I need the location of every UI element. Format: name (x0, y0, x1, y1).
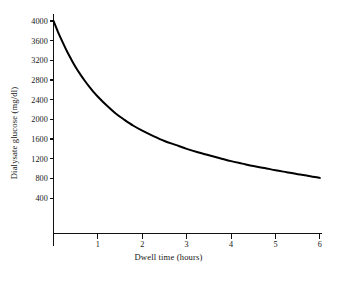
x-tick-label: 1 (96, 240, 100, 249)
x-tick-label: 5 (273, 240, 277, 249)
x-tick-label: 2 (140, 240, 144, 249)
axes (54, 14, 323, 246)
x-tick-label: 6 (318, 240, 322, 249)
y-tick-label: 3200 (10, 56, 48, 65)
x-axis-title: Dwell time (hours) (0, 252, 337, 262)
y-tick-label: 3600 (10, 36, 48, 45)
chart-figure: 40080012001600200024002800320036004000 1… (0, 0, 337, 284)
x-axis-ticks (98, 234, 320, 239)
glucose-decay-curve (54, 21, 320, 178)
y-tick-label: 4000 (10, 17, 48, 26)
y-tick-label: 400 (10, 194, 48, 203)
y-axis-ticks (50, 21, 54, 198)
y-axis-title: Dialysate glucose (mg/dl) (9, 73, 19, 193)
plot-area (0, 0, 337, 284)
x-tick-label: 3 (185, 240, 189, 249)
x-tick-label: 4 (229, 240, 233, 249)
